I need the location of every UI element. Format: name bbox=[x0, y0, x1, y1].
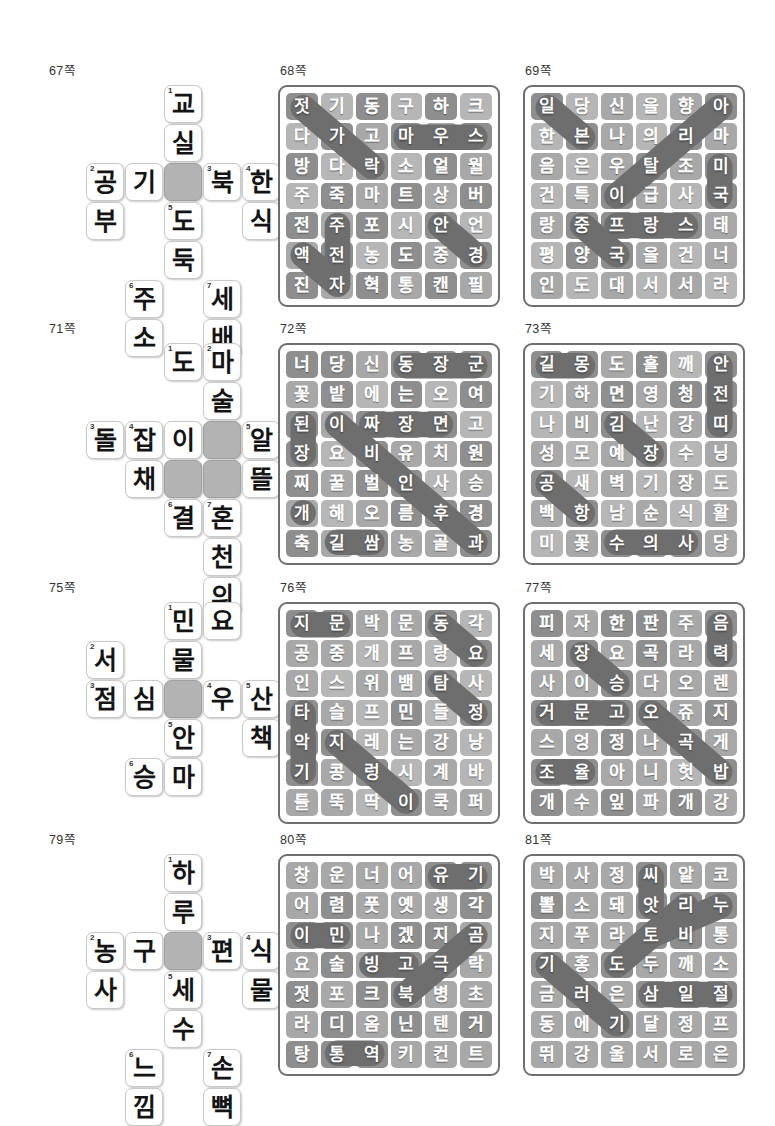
wordsearch-cell: 신 bbox=[356, 351, 388, 378]
wordsearch-cell: 쥬 bbox=[670, 700, 702, 727]
wordsearch-cell: 시 bbox=[391, 212, 423, 239]
crossword-letter: 마 bbox=[204, 344, 240, 380]
crossword-letter bbox=[204, 461, 240, 497]
wordsearch-cell: 트 bbox=[391, 183, 423, 210]
page-label: 76쪽 bbox=[280, 577, 500, 596]
crossword-blank-cell bbox=[164, 932, 202, 970]
wordsearch-cell-highlighted: 빙 bbox=[356, 952, 388, 979]
wordsearch-cell: 닝 bbox=[705, 441, 737, 468]
wordsearch-cell-highlighted: 미 bbox=[705, 153, 737, 180]
wordsearch-cell-highlighted: 짜 bbox=[356, 411, 388, 438]
wordsearch-cell: 동 bbox=[356, 93, 388, 120]
wordsearch-cell: 해 bbox=[321, 500, 353, 527]
wordsearch-cell: 승 bbox=[460, 470, 492, 497]
wordsearch-cell: 전 bbox=[286, 212, 318, 239]
wordsearch-cell: 세 bbox=[531, 640, 563, 667]
wordsearch-cell: 달 bbox=[636, 1011, 668, 1038]
crossword-cell: 사 bbox=[86, 971, 124, 1009]
wordsearch-cell-highlighted: 장 bbox=[566, 640, 598, 667]
wordsearch-cell: 판 bbox=[636, 610, 668, 637]
crossword-cell: 물 bbox=[242, 971, 280, 1009]
wordsearch-cell-highlighted: 몽 bbox=[566, 351, 598, 378]
wordsearch-cell: 정 bbox=[601, 729, 633, 756]
wordsearch-cell: 건 bbox=[670, 242, 702, 269]
crossword-letter: 식 bbox=[243, 933, 279, 969]
page-label: 72쪽 bbox=[280, 318, 500, 337]
wordsearch-cell-highlighted: 주 bbox=[321, 212, 353, 239]
wordsearch-puzzle-p72: 72쪽너당신동장군꽃밭에는오여된이짜장면고장요비유치원찌꿀벌인사승개해오름후경축… bbox=[278, 318, 500, 565]
wordsearch-cell: 공 bbox=[286, 640, 318, 667]
wordsearch-cell: 은 bbox=[566, 153, 598, 180]
wordsearch-cell: 성 bbox=[531, 441, 563, 468]
crossword-letter: 돌 bbox=[87, 422, 123, 458]
wordsearch-cell: 위 bbox=[356, 670, 388, 697]
wordsearch-cell: 알 bbox=[670, 862, 702, 889]
crossword-blank-cell bbox=[164, 680, 202, 718]
wordsearch-cell: 마 bbox=[705, 123, 737, 150]
crossword-cell: 4잡 bbox=[125, 421, 163, 459]
page-label: 69쪽 bbox=[525, 60, 745, 79]
page-label: 80쪽 bbox=[280, 829, 500, 848]
crossword-letter: 공 bbox=[87, 164, 123, 200]
wordsearch-cell: 축 bbox=[286, 530, 318, 557]
wordsearch-cell: 도 bbox=[391, 242, 423, 269]
crossword-cell: 1도 bbox=[164, 343, 202, 381]
crossword-letter: 민 bbox=[165, 603, 201, 639]
wordsearch-cell: 에 bbox=[566, 1011, 598, 1038]
wordsearch-cell: 너 bbox=[705, 242, 737, 269]
wordsearch-cell-highlighted: 면 bbox=[425, 411, 457, 438]
wordsearch-cell-highlighted: 조 bbox=[531, 759, 563, 786]
wordsearch-cells: 일당신을향아한본나의리마음은우탈조미건특이급사국랑중프랑스태평양국을건너인도대서… bbox=[531, 93, 737, 299]
wordsearch-cell: 고 bbox=[460, 411, 492, 438]
crossword-cell: 4식 bbox=[242, 932, 280, 970]
wordsearch-cell: 도 bbox=[566, 272, 598, 299]
wordsearch-cell: 죽 bbox=[321, 183, 353, 210]
crossword-letter: 주 bbox=[126, 281, 162, 317]
wordsearch-cell-highlighted: 가 bbox=[321, 123, 353, 150]
wordsearch-cell-highlighted: 러 bbox=[566, 981, 598, 1008]
crossword-cell: 심 bbox=[125, 680, 163, 718]
wordsearch-cell: 꽃 bbox=[286, 381, 318, 408]
wordsearch-cell: 박 bbox=[356, 610, 388, 637]
wordsearch-cell: 개 bbox=[670, 789, 702, 816]
wordsearch-cell: 마 bbox=[356, 183, 388, 210]
wordsearch-cell: 강 bbox=[566, 1041, 598, 1068]
wordsearch-cell-highlighted: 기 bbox=[601, 1011, 633, 1038]
wordsearch-cell-highlighted: 마 bbox=[391, 123, 423, 150]
crossword-cell: 2농 bbox=[86, 932, 124, 970]
wordsearch-cell: 개 bbox=[356, 640, 388, 667]
crossword-letter: 승 bbox=[126, 759, 162, 795]
crossword-letter: 농 bbox=[87, 933, 123, 969]
page-label: 79쪽 bbox=[49, 829, 269, 848]
wordsearch-cell: 다 bbox=[321, 153, 353, 180]
wordsearch-cell: 골 bbox=[425, 530, 457, 557]
crossword-letter: 알 bbox=[243, 422, 279, 458]
wordsearch-cell-highlighted: 아 bbox=[705, 93, 737, 120]
wordsearch-cell: 모 bbox=[566, 441, 598, 468]
wordsearch-cell: 의 bbox=[636, 123, 668, 150]
wordsearch-cell: 기 bbox=[321, 93, 353, 120]
wordsearch-cell-highlighted: 리 bbox=[670, 892, 702, 919]
wordsearch-cell: 옛 bbox=[391, 892, 423, 919]
crossword-cell: 7혼 bbox=[203, 499, 241, 537]
wordsearch-cell: 백 bbox=[531, 500, 563, 527]
wordsearch-cell-highlighted: 길 bbox=[531, 351, 563, 378]
crossword-grid: 1교실2공기3북4한부5도식둑6주7세소배 bbox=[47, 85, 269, 300]
wordsearch-cell: 렴 bbox=[321, 892, 353, 919]
crossword-blank-cell bbox=[203, 421, 241, 459]
wordsearch-cell-highlighted: 스 bbox=[670, 212, 702, 239]
wordsearch-cell-highlighted: 유 bbox=[425, 862, 457, 889]
wordsearch-puzzle-p77: 77쪽피자한판주음세장요곡라력사이승다오렌거문고오쥬지스엉정나곡게조율아니헛밥개… bbox=[523, 577, 745, 824]
wordsearch-cells: 창운너어유기어렴풋옛생각이민나겠지곰요술빙고극락젓포크북병초라디옴닌텐거탕통역키… bbox=[286, 862, 492, 1068]
wordsearch-puzzle-p73: 73쪽길몽도흘깨안기하면영청전나비김난강띠성모예장수닝공새벽기장도백항남순식활미… bbox=[523, 318, 745, 565]
page-label: 67쪽 bbox=[49, 60, 269, 79]
wordsearch-cell: 라 bbox=[601, 922, 633, 949]
wordsearch-cell-highlighted: 역 bbox=[356, 1041, 388, 1068]
wordsearch-cell-highlighted: 탐 bbox=[425, 670, 457, 697]
wordsearch-cell-highlighted: 장 bbox=[425, 351, 457, 378]
wordsearch-cell: 키 bbox=[391, 1041, 423, 1068]
wordsearch-cell: 어 bbox=[286, 892, 318, 919]
crossword-cell: 구 bbox=[125, 932, 163, 970]
wordsearch-cell: 박 bbox=[531, 862, 563, 889]
wordsearch-cell: 식 bbox=[670, 500, 702, 527]
